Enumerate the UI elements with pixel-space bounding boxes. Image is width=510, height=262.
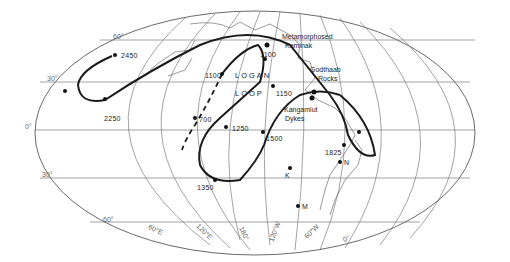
point-label-n: N xyxy=(344,159,349,166)
lat-label-60s: 60° xyxy=(103,216,114,223)
map-outline xyxy=(35,11,475,255)
star-icon-kangamiut xyxy=(310,96,315,101)
star-icon-godthaab xyxy=(312,90,317,95)
lat-label-0: 0° xyxy=(25,123,32,130)
age-label: 2450 xyxy=(121,52,138,59)
logan-label: LOGAN xyxy=(235,72,271,80)
loop-label: LOOP xyxy=(235,90,264,98)
age-label: 1250 xyxy=(232,125,249,132)
age-label: 1100 xyxy=(260,51,276,58)
star-icon-kaminak xyxy=(265,43,270,48)
kaminak-label-1: Metamorphosed xyxy=(282,33,333,40)
age-label: 1825 xyxy=(325,149,342,156)
lat-label-30s: 30° xyxy=(42,171,53,178)
pole-path-map: 2450 2250 1100 700 1250 1150 1500 1350 1… xyxy=(0,0,510,262)
age-label: 1350 xyxy=(197,184,214,191)
point-label-k: K xyxy=(285,172,290,179)
map-graphic xyxy=(0,0,510,262)
godthaab-label-2: Rocks xyxy=(318,75,337,82)
age-label: 700 xyxy=(199,116,212,123)
dashed-path-segment xyxy=(182,74,222,150)
latitude-grid xyxy=(35,40,475,222)
age-label: 1150 xyxy=(276,90,292,97)
point-label-m: M xyxy=(302,203,308,210)
godthaab-label-1: Godthaab xyxy=(310,66,341,73)
lat-label-30n: 30° xyxy=(47,75,58,82)
kangamiut-label-2: Dykes xyxy=(285,115,304,122)
age-label: 1100 xyxy=(205,72,221,79)
kangamiut-label-1: Kangamiut xyxy=(284,106,317,113)
age-label: 1500 xyxy=(266,135,283,142)
age-label: 2250 xyxy=(104,115,121,122)
coastlines xyxy=(150,22,362,215)
kaminak-label-2: Kaminak xyxy=(285,42,312,49)
lat-label-60n: 60° xyxy=(113,33,124,40)
